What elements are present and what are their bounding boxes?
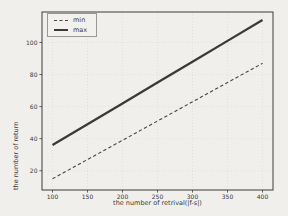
legend-item-max: max <box>54 27 87 34</box>
dashed-line-sample-icon <box>54 20 68 21</box>
solid-line-sample-icon <box>54 29 68 31</box>
y-tick-label: 80 <box>30 71 38 78</box>
plot-border <box>42 12 273 190</box>
plot-area: 10015020025030035040020406080100 <box>0 0 288 216</box>
gridlines <box>42 12 273 190</box>
legend-item-min: min <box>54 17 87 24</box>
legend-label-max: max <box>73 27 87 34</box>
y-tick-label: 60 <box>30 103 38 110</box>
y-tick-label: 100 <box>26 39 38 46</box>
y-tick-label: 20 <box>30 167 38 174</box>
y-axis-label: the number of return <box>12 12 20 190</box>
line-chart-figure: 10015020025030035040020406080100 the num… <box>0 0 288 216</box>
legend: min max <box>47 13 97 37</box>
y-tick-label: 40 <box>30 135 38 142</box>
series-line-min <box>53 63 263 178</box>
x-axis-label: the number of retrival(|f-s|) <box>42 199 273 207</box>
legend-label-min: min <box>73 17 85 24</box>
y-axis-ticks: 20406080100 <box>26 39 42 174</box>
